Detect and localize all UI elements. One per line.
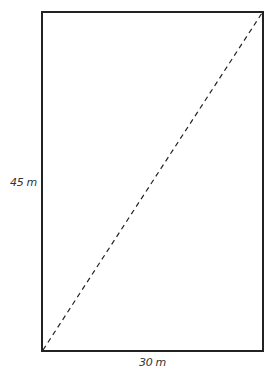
dashed-diagonal bbox=[43, 13, 262, 350]
width-label: 30 m bbox=[139, 356, 166, 369]
rectangle-diagram bbox=[0, 0, 275, 377]
height-label: 45 m bbox=[10, 176, 37, 189]
